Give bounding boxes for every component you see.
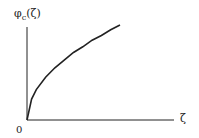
origin-label: 0 (16, 124, 22, 135)
function-plot: φc(ζ) ζ 0 (0, 0, 199, 138)
x-axis-label: ζ (180, 112, 186, 125)
y-axis-label: φc(ζ) (14, 7, 41, 22)
phi-curve (27, 25, 120, 120)
